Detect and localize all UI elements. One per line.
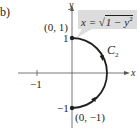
y-tick-label-minus-1: −1 xyxy=(57,103,69,114)
y-axis-label: y xyxy=(69,0,73,10)
callout-tail xyxy=(76,29,92,38)
radicand: 1 − y2 xyxy=(105,15,133,28)
point-0-1 xyxy=(70,36,74,40)
point-label-0-minus-1: (0, −1) xyxy=(75,112,105,123)
radicand-main: 1 − y xyxy=(106,16,129,28)
curve-label-main: C xyxy=(107,43,115,57)
equation-text: x = √1 − y2 xyxy=(81,13,133,28)
equation-callout: x = √1 − y2 xyxy=(78,10,137,29)
part-label: b) xyxy=(0,7,10,18)
x-tick-label-minus-1: −1 xyxy=(30,79,42,90)
radical-sign: √ xyxy=(99,16,105,28)
radicand-exponent: 2 xyxy=(129,15,133,23)
point-0-minus-1 xyxy=(70,106,74,110)
y-tick-label-1: 1 xyxy=(63,33,69,44)
x-axis-label: x xyxy=(131,67,135,78)
curve-label-subscript: 2 xyxy=(115,51,119,59)
x-axis-arrow-icon xyxy=(124,71,130,75)
curve-label: C2 xyxy=(107,45,119,61)
equation-lhs: x = xyxy=(81,16,99,28)
